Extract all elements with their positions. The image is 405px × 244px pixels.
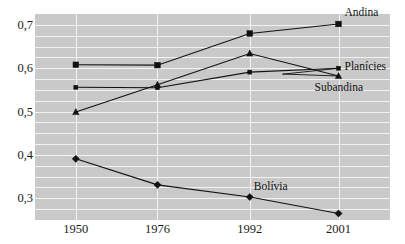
- data-point-marker: [247, 31, 253, 37]
- series-label-planicies: Planícies: [345, 60, 387, 72]
- data-point-marker: [155, 62, 161, 68]
- series-label-subandina: Subandina: [315, 81, 364, 93]
- y-axis-tick-label: 0,5: [1, 104, 33, 119]
- series-layer: [35, 14, 390, 220]
- data-point-marker: [246, 193, 253, 200]
- y-axis-tick-label: 0,7: [1, 17, 33, 32]
- line-chart: 0,30,40,50,60,7 1950197619922001 AndinaP…: [0, 0, 405, 244]
- cropped-caption-strip: [0, 0, 405, 5]
- series-label-andina: Andina: [345, 6, 379, 18]
- series-line-andina: [76, 24, 339, 65]
- data-point-marker: [248, 70, 252, 74]
- x-axis-tick-label: 1950: [63, 222, 88, 237]
- data-point-marker: [154, 181, 161, 188]
- data-point-marker: [335, 210, 342, 217]
- x-axis-tick-label: 1976: [145, 222, 170, 237]
- series-line-bolívia: [76, 159, 339, 214]
- x-axis-tick-label: 1992: [237, 222, 262, 237]
- y-axis-tick-label: 0,6: [1, 61, 33, 76]
- data-point-marker: [74, 85, 78, 89]
- series-line-subandina: [76, 53, 339, 112]
- y-axis-tick-label: 0,3: [1, 191, 33, 206]
- data-point-marker: [72, 155, 79, 162]
- data-point-marker: [73, 62, 79, 68]
- series-label-bolivia: Bolívia: [254, 180, 288, 192]
- series-line-planícies: [76, 68, 339, 88]
- data-point-marker: [336, 21, 342, 27]
- y-axis-tick-labels: 0,30,40,50,60,7: [0, 14, 33, 220]
- data-point-marker: [247, 50, 253, 56]
- x-axis-tick-label: 2001: [326, 222, 351, 237]
- x-axis-tick-labels: 1950197619922001: [35, 222, 390, 242]
- y-axis-tick-label: 0,4: [1, 147, 33, 162]
